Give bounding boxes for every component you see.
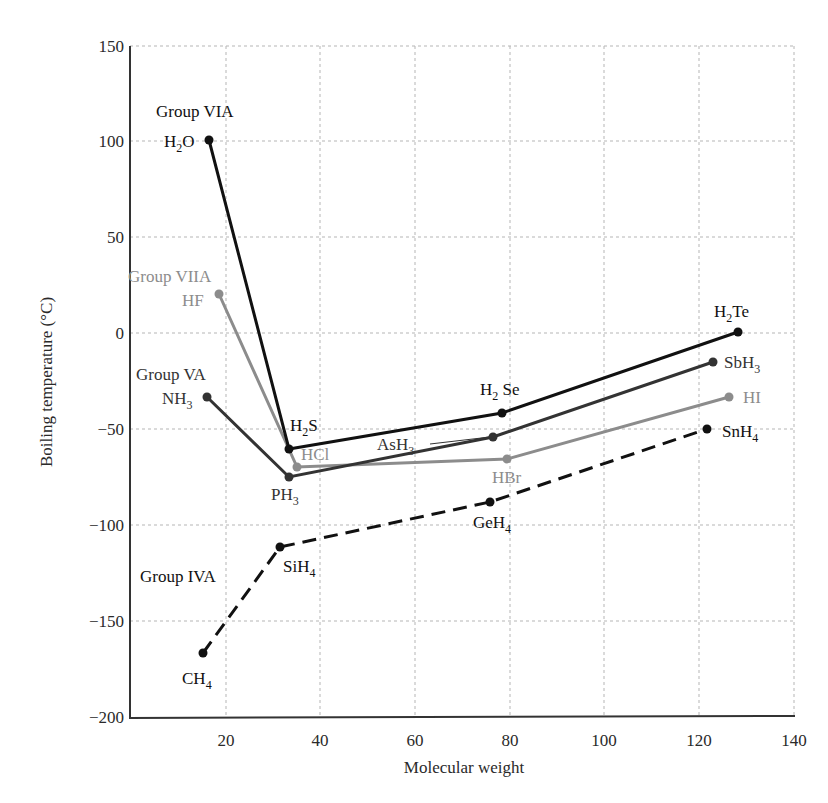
point-h2s	[285, 445, 294, 454]
x-tick-60: 60	[407, 731, 424, 750]
point-sih4	[276, 543, 285, 552]
label-h2s: H2S	[290, 416, 318, 439]
label-ch4: CH4	[182, 669, 212, 692]
y-tick-labels: 150 100 50 0 −50 −100 −150 −200	[89, 37, 124, 727]
y-tick-neg200: −200	[89, 708, 124, 727]
point-hbr	[503, 455, 512, 464]
y-axis-title: Boiling temperature (°C)	[37, 297, 56, 467]
label-h2o: H2O	[164, 132, 195, 155]
y-tick-neg50: −50	[97, 420, 124, 439]
label-nh3: NH3	[162, 389, 193, 412]
x-tick-labels: 20 40 60 80 100 120 140	[218, 731, 807, 750]
line-group-iva	[203, 429, 707, 653]
y-tick-50: 50	[107, 228, 124, 247]
label-hbr: HBr	[492, 468, 522, 487]
boiling-point-chart: 150 100 50 0 −50 −100 −150 −200 20 40 60…	[0, 0, 828, 803]
x-axis	[129, 716, 795, 718]
group-label-iva: Group IVA	[140, 567, 216, 586]
point-h2te	[734, 328, 743, 337]
y-tick-150: 150	[99, 37, 125, 56]
label-sih4: SiH4	[283, 557, 315, 580]
y-tick-100: 100	[99, 132, 125, 151]
label-hf: HF	[182, 291, 204, 310]
point-ch4	[199, 649, 208, 658]
label-ash3: AsH3	[377, 435, 414, 458]
point-sbh3	[709, 358, 718, 367]
label-ph3: PH3	[271, 485, 299, 508]
x-axis-title: Molecular weight	[404, 758, 525, 777]
label-snh4: SnH4	[722, 422, 758, 445]
point-hf	[215, 290, 224, 299]
series-group-via	[205, 136, 743, 454]
label-geh4: GeH4	[473, 513, 511, 536]
x-tick-40: 40	[312, 731, 329, 750]
x-tick-100: 100	[591, 731, 617, 750]
x-tick-80: 80	[502, 731, 519, 750]
label-h2te: H2Te	[714, 302, 749, 325]
group-label-via: Group VIA	[156, 102, 234, 121]
group-label-va: Group VA	[136, 365, 206, 384]
x-tick-140: 140	[781, 731, 807, 750]
label-hcl: HCl	[301, 445, 330, 464]
label-h2se: H2 Se	[480, 380, 520, 403]
point-hi	[725, 393, 734, 402]
label-sbh3: SbH3	[724, 353, 760, 376]
label-hi: HI	[743, 388, 761, 407]
x-tick-20: 20	[218, 731, 235, 750]
point-h2o	[205, 136, 214, 145]
point-nh3	[203, 393, 212, 402]
point-geh4	[486, 498, 495, 507]
y-tick-neg100: −100	[89, 516, 124, 535]
point-ph3	[285, 473, 294, 482]
series-group-iva	[199, 425, 712, 658]
point-snh4	[703, 425, 712, 434]
y-tick-neg150: −150	[89, 612, 124, 631]
line-group-via	[209, 140, 738, 449]
x-tick-120: 120	[686, 731, 712, 750]
point-h2se	[498, 409, 507, 418]
y-tick-0: 0	[116, 324, 125, 343]
group-label-viia: Group VIIA	[128, 267, 212, 286]
